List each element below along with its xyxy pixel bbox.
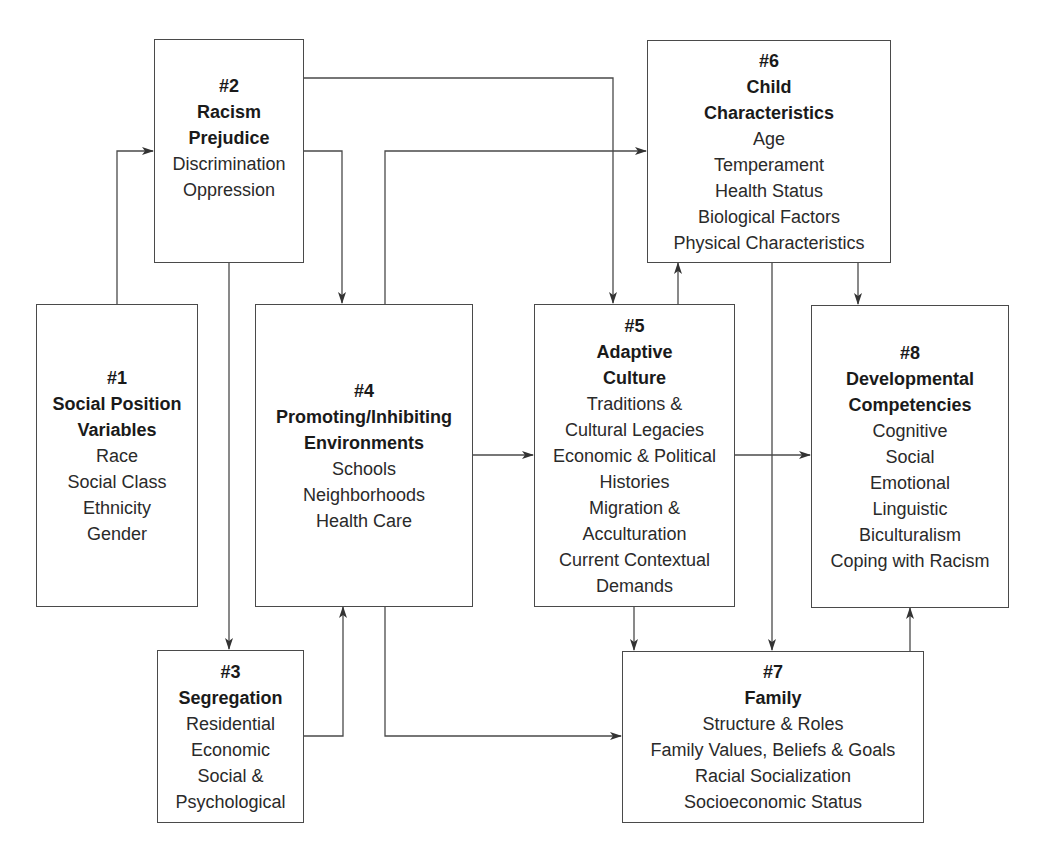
box-item: Family Values, Beliefs & Goals	[651, 737, 896, 763]
box-title: Adaptive	[596, 339, 672, 365]
box-number: #6	[759, 48, 779, 74]
box-number: #8	[900, 340, 920, 366]
box-item: Economic	[191, 737, 270, 763]
box-number: #3	[220, 659, 240, 685]
box-item: Linguistic	[872, 496, 947, 522]
box-title: Promoting/Inhibiting	[276, 404, 452, 430]
box-item: Biological Factors	[698, 204, 840, 230]
box-item: Age	[753, 126, 785, 152]
box-title: Prejudice	[188, 125, 269, 151]
box-item: Socioeconomic Status	[684, 789, 862, 815]
box-segregation: #3 Segregation Residential Economic Soci…	[157, 650, 304, 823]
box-item: Temperament	[714, 152, 824, 178]
box-item: Social Class	[67, 469, 166, 495]
box-title: Developmental	[846, 366, 974, 392]
box-item: Current Contextual	[559, 547, 710, 573]
box-racism-prejudice: #2 RacismPrejudice Discrimination Oppres…	[154, 39, 304, 263]
box-item: Neighborhoods	[303, 482, 425, 508]
box-item: Coping with Racism	[830, 548, 989, 574]
box-item: Schools	[332, 456, 396, 482]
box-item: Oppression	[183, 177, 275, 203]
box-number: #5	[624, 313, 644, 339]
box-item: Emotional	[870, 470, 950, 496]
edge-3-to-4	[303, 607, 343, 736]
edge-2-to-5	[303, 78, 613, 303]
box-adaptive-culture: #5 AdaptiveCulture Traditions & Cultural…	[534, 304, 735, 607]
box-item: Ethnicity	[83, 495, 151, 521]
box-item: Traditions &	[587, 391, 682, 417]
box-number: #7	[763, 659, 783, 685]
box-item: Health Care	[316, 508, 412, 534]
box-item: Acculturation	[582, 521, 686, 547]
box-title: Competencies	[846, 392, 974, 418]
edge-4-to-6	[385, 151, 646, 304]
box-item: Racial Socialization	[695, 763, 851, 789]
box-developmental-competencies: #8 DevelopmentalCompetencies Cognitive S…	[811, 305, 1009, 608]
box-title: Family	[744, 685, 801, 711]
box-item: Cognitive	[872, 418, 947, 444]
box-item: Structure & Roles	[702, 711, 843, 737]
box-title: Culture	[596, 365, 672, 391]
box-social-position-variables: #1 Social PositionVariables Race Social …	[36, 304, 198, 607]
box-item: Cultural Legacies	[565, 417, 704, 443]
box-title: Child	[704, 74, 834, 100]
box-item: Gender	[87, 521, 147, 547]
box-child-characteristics: #6 ChildCharacteristics Age Temperament …	[647, 40, 891, 263]
box-item: Race	[96, 443, 138, 469]
edge-4-to-7	[385, 606, 621, 736]
edge-2-to-4	[303, 151, 342, 303]
box-item: Discrimination	[172, 151, 285, 177]
box-number: #1	[107, 365, 127, 391]
box-number: #4	[354, 378, 374, 404]
box-item: Demands	[596, 573, 673, 599]
integrative-model-diagram: #1 Social PositionVariables Race Social …	[0, 0, 1037, 851]
box-title: Segregation	[178, 685, 282, 711]
box-title: Social Position	[52, 391, 181, 417]
box-item: Physical Characteristics	[673, 230, 864, 256]
box-item: Psychological	[175, 789, 285, 815]
edge-1-to-2	[117, 151, 153, 304]
box-title: Characteristics	[704, 100, 834, 126]
box-item: Health Status	[715, 178, 823, 204]
box-title: Racism	[188, 99, 269, 125]
box-number: #2	[219, 73, 239, 99]
box-item: Histories	[599, 469, 669, 495]
box-promoting-inhibiting-environments: #4 Promoting/InhibitingEnvironments Scho…	[255, 304, 473, 607]
box-item: Economic & Political	[553, 443, 716, 469]
box-family: #7 Family Structure & Roles Family Value…	[622, 651, 924, 823]
box-item: Social &	[197, 763, 263, 789]
box-title: Variables	[52, 417, 181, 443]
box-title: Environments	[276, 430, 452, 456]
box-item: Biculturalism	[859, 522, 961, 548]
box-item: Social	[885, 444, 934, 470]
box-item: Migration &	[589, 495, 680, 521]
box-item: Residential	[186, 711, 275, 737]
